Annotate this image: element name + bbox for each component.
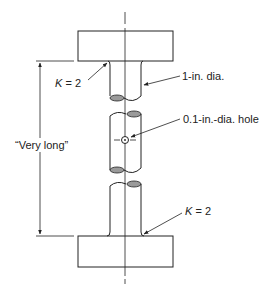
k-symbol: K [185,205,192,217]
bottom-fillet-leader [144,213,182,234]
shaft-diameter-label: 1-in. dia. [182,71,224,82]
bottom-block [78,236,173,267]
break-ellipse [110,95,124,101]
hole-leader [131,119,180,137]
top-fillet-label: K = 2 [55,78,81,89]
top-shaft-segment [108,61,143,101]
middle-shaft-segment [110,111,141,173]
hole-label: 0.1-in.-dia. hole [183,114,259,125]
k-value: = 2 [65,77,81,89]
k-symbol: K [55,77,62,89]
top-block [78,31,173,61]
top-fillet-leader [88,63,107,80]
bottom-fillet-label: K = 2 [185,206,211,217]
bottom-shaft-segment [107,181,144,236]
k-value: = 2 [195,205,211,217]
shaft-diameter-leader [144,76,180,85]
break-ellipse [127,111,141,117]
break-ellipse [110,167,124,173]
break-ellipse [127,181,141,187]
length-label: “Very long” [14,140,69,151]
